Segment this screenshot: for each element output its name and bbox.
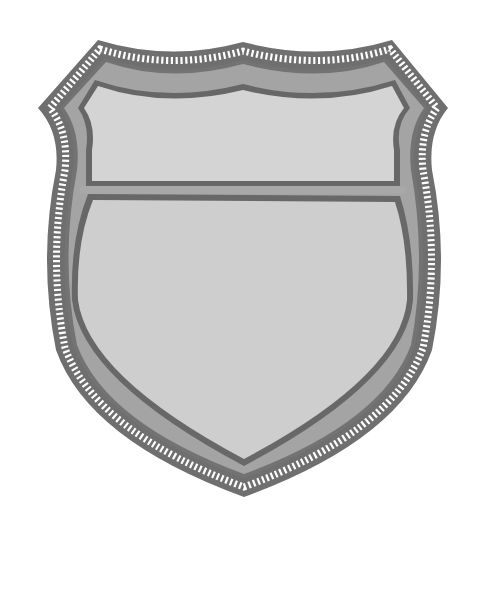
shield-illustration <box>0 0 484 596</box>
top-banner-panel <box>84 86 404 181</box>
shield-svg <box>0 0 484 596</box>
divider-band <box>80 186 406 194</box>
